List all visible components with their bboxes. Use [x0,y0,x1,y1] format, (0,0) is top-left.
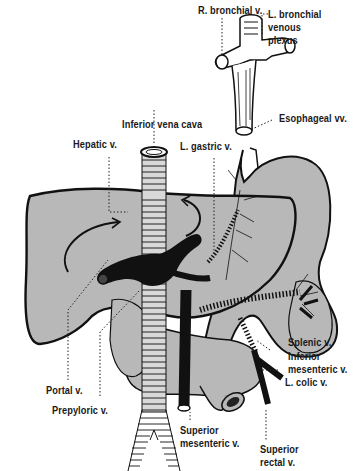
inferior-mesenteric-vein [254,350,282,404]
label-r-bronchial-vein: R. bronchial v. [198,4,262,17]
label-l-bronchial-venous-plexus: L. bronchial venous plexus [268,8,321,47]
diagram-artwork [0,0,358,471]
anatomy-diagram: R. bronchial v. L. bronchial venous plex… [0,0,358,471]
label-hepatic-vein: Hepatic v. [73,138,117,151]
label-inferior-mesenteric-vein: Inferior mesenteric v. [288,350,348,376]
label-superior-rectal-vein: Superior rectal v. [260,443,299,469]
label-l-colic-vein: L. colic v. [285,376,327,389]
label-inferior-vena-cava: Inferior vena cava [122,118,202,131]
label-superior-mesenteric-vein: Superior mesenteric v. [180,424,240,450]
label-portal-vein: Portal v. [46,384,83,397]
label-prepyloric-vein: Prepyloric v. [52,404,108,417]
label-splenic-vein: Splenic v. [288,336,331,349]
label-esophageal-veins: Esophageal vv. [279,112,347,125]
label-l-gastric-vein: L. gastric v. [180,140,232,153]
